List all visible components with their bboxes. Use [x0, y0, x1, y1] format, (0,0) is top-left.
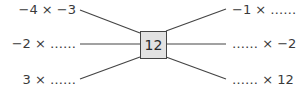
center-number: 12	[145, 37, 163, 53]
connector-top-right	[166, 9, 226, 31]
connector-top-left	[80, 10, 140, 33]
center-number-box: 12	[140, 31, 167, 59]
left-expression-3: 3 × ……	[23, 72, 76, 88]
right-expression-1: −1 × ……	[232, 2, 296, 18]
connector-bottom-left	[80, 57, 140, 79]
connector-bottom-right	[166, 57, 226, 79]
left-expression-1: −4 × −3	[19, 2, 76, 18]
left-expression-2: −2 × ……	[12, 36, 76, 52]
right-expression-2: …… × −2	[232, 36, 296, 52]
right-expression-3: …… × 12	[232, 72, 294, 88]
